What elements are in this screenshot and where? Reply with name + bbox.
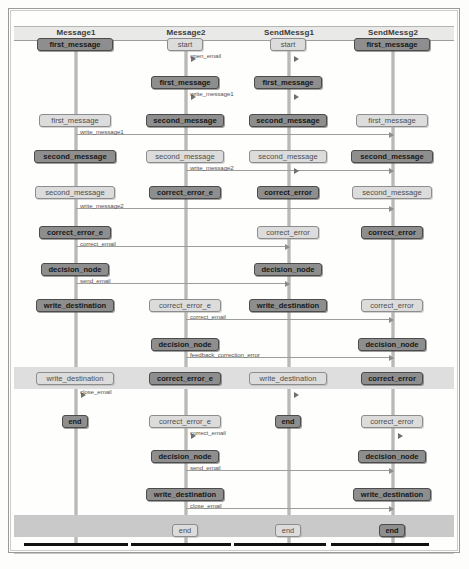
activity-node[interactable]: correct_error — [361, 372, 423, 385]
activity-node[interactable]: decision_node — [358, 338, 426, 351]
message-arrow[interactable] — [288, 58, 298, 59]
activity-node[interactable]: first_message — [37, 38, 113, 51]
activity-node[interactable]: correct_error_e — [149, 372, 221, 385]
activity-node[interactable]: correct_error — [361, 415, 423, 428]
message-arrow[interactable] — [288, 96, 298, 97]
end-bar — [24, 543, 128, 546]
activity-node[interactable]: correct_error — [361, 226, 423, 239]
activity-node[interactable]: end — [275, 415, 301, 428]
activity-node[interactable]: end — [275, 524, 301, 537]
activity-node[interactable]: write_destination — [36, 299, 114, 312]
activity-node[interactable]: correct_error — [257, 226, 319, 239]
end-bar — [234, 543, 326, 546]
activity-node[interactable]: write_destination — [146, 488, 224, 501]
activity-node[interactable]: second_message — [249, 114, 327, 127]
message-arrow-label: correct_email — [190, 313, 226, 320]
activity-node[interactable]: second_message — [146, 150, 224, 163]
message-arrow-label: correct_email — [80, 240, 116, 247]
activity-node[interactable]: second_message — [35, 186, 115, 199]
activity-node[interactable]: second_message — [34, 150, 116, 163]
message-arrow-label: send_email — [190, 464, 221, 471]
end-bar — [331, 543, 429, 546]
activity-node[interactable]: write_destination — [353, 488, 431, 501]
message-arrow-label: feedback_correction_error — [190, 351, 260, 358]
activity-node[interactable]: correct_error — [361, 299, 423, 312]
activity-node[interactable]: write_destination — [249, 299, 327, 312]
activity-node[interactable]: decision_node — [151, 450, 219, 463]
activity-node[interactable]: start — [270, 38, 306, 51]
activity-node[interactable]: first_message — [354, 38, 430, 51]
activity-node[interactable]: second_message — [146, 114, 224, 127]
activity-node[interactable]: write_destination — [36, 372, 114, 385]
activity-node[interactable]: decision_node — [254, 263, 322, 276]
page-baseline — [14, 553, 454, 554]
activity-node[interactable]: correct_error_e — [149, 299, 221, 312]
activity-node[interactable]: decision_node — [151, 338, 219, 351]
activity-node[interactable]: second_message — [351, 150, 433, 163]
message-arrow-label: open_email — [190, 52, 221, 59]
activity-node[interactable]: correct_error_e — [149, 186, 221, 199]
sequence-diagram-canvas: Message1Message2SendMessg1SendMessg2 ope… — [0, 0, 469, 569]
message-arrow[interactable] — [392, 435, 402, 436]
message-arrow-label: close_email — [190, 502, 222, 509]
activity-node[interactable]: first_message — [39, 114, 111, 127]
message-arrow[interactable] — [288, 394, 298, 395]
activity-node[interactable]: decision_node — [41, 263, 109, 276]
message-arrow-label: correct_email — [190, 429, 226, 436]
activity-node[interactable]: second_message — [249, 150, 327, 163]
message-arrow-label: write_message1 — [190, 90, 234, 97]
activity-node[interactable]: end — [172, 524, 198, 537]
activity-node[interactable]: correct_error_e — [149, 415, 221, 428]
activity-node[interactable]: first_message — [151, 76, 219, 89]
end-bar — [131, 543, 231, 546]
message-arrow[interactable] — [288, 170, 298, 171]
activity-node[interactable]: first_message — [254, 76, 322, 89]
activity-node[interactable]: correct_error_e — [39, 226, 111, 239]
activity-node[interactable]: start — [167, 38, 203, 51]
activity-node[interactable]: decision_node — [358, 450, 426, 463]
message-arrow-label: write_message2 — [190, 164, 234, 171]
activity-node[interactable]: second_message — [352, 186, 432, 199]
message-arrow-label: send_email — [80, 277, 111, 284]
message-arrow-label: write_message2 — [80, 202, 124, 209]
activity-node[interactable]: write_destination — [249, 372, 327, 385]
activity-node[interactable]: correct_error — [257, 186, 319, 199]
message-arrow-label: write_message1 — [80, 128, 124, 135]
activity-node[interactable]: end — [62, 415, 88, 428]
message-arrow-label: close_email — [80, 388, 112, 395]
activity-node[interactable]: first_message — [356, 114, 428, 127]
activity-node[interactable]: end — [379, 524, 405, 537]
